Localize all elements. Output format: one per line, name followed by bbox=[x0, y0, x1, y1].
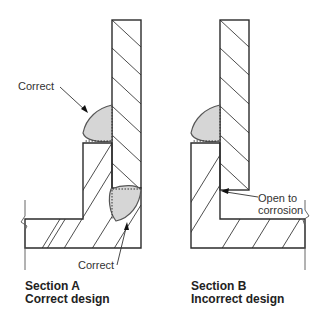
arrowhead-icon bbox=[81, 105, 88, 113]
section-a-break-line bbox=[21, 200, 27, 270]
section-a-top-weld-label: Correct bbox=[18, 80, 54, 93]
section-b-weld bbox=[191, 105, 220, 142]
arrowhead-icon bbox=[221, 188, 229, 194]
section-a-vertical-plate bbox=[112, 20, 141, 188]
section-a-drawing bbox=[21, 20, 141, 270]
section-b-caption-title: Section B bbox=[191, 279, 246, 293]
section-b-annotation-line2: corrosion bbox=[258, 204, 303, 217]
section-a-bottom-leader bbox=[117, 228, 126, 265]
section-a-top-leader bbox=[60, 87, 85, 110]
section-b-drawing bbox=[180, 20, 309, 270]
section-a-top-weld bbox=[83, 105, 112, 142]
weld-joint-diagram bbox=[0, 0, 321, 319]
section-b-caption-subtitle: Incorrect design bbox=[191, 292, 284, 306]
section-b-leader bbox=[226, 192, 258, 197]
section-a-plate-hatch bbox=[112, 20, 141, 190]
section-a-bottom-weld-label: Correct bbox=[78, 259, 114, 272]
section-b-vertical-plate bbox=[220, 20, 249, 190]
section-b-break-line bbox=[303, 200, 309, 270]
section-b-plate-hatch bbox=[220, 20, 249, 190]
section-a-caption-subtitle: Correct design bbox=[25, 292, 110, 306]
section-a-bottom-weld bbox=[109, 186, 141, 221]
section-a-caption-title: Section A bbox=[25, 279, 80, 293]
